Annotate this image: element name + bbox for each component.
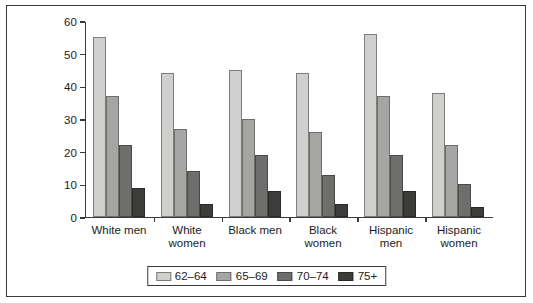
bar [268, 191, 281, 217]
bar [309, 132, 322, 217]
legend-item[interactable]: 70–74 [278, 270, 329, 282]
legend-swatch-icon [156, 272, 171, 281]
bar [296, 73, 309, 217]
y-axis-tick: 50 [64, 49, 85, 61]
x-axis-labels: White menWhite womenBlack menBlack women… [85, 224, 493, 250]
bar-group-bars [86, 22, 154, 217]
x-axis-category-label: White women [153, 224, 221, 250]
bar [390, 155, 403, 217]
bar-group-bars [425, 22, 493, 217]
y-axis-tick: 30 [64, 114, 85, 126]
bar-group-bars [357, 22, 425, 217]
chart-legend: 62–6465–6970–7475+ [147, 266, 386, 286]
x-axis-tick-mark [222, 217, 223, 222]
bar [322, 175, 335, 217]
bar-group [357, 22, 425, 217]
y-axis: 0102030405060 [40, 22, 85, 218]
legend-item[interactable]: 62–64 [156, 270, 207, 282]
bar [403, 191, 416, 217]
legend-swatch-icon [339, 272, 354, 281]
bar [106, 96, 119, 217]
x-axis-category-label: Black women [289, 224, 357, 250]
bar-group [222, 22, 290, 217]
x-axis-category-label: Hispanic women [425, 224, 493, 250]
bar [335, 204, 348, 217]
bar-group [86, 22, 154, 217]
bar [377, 96, 390, 217]
x-axis-tick-mark [425, 217, 426, 222]
bar [432, 93, 445, 217]
y-axis-tick-label: 20 [64, 147, 77, 159]
legend-item-label: 62–64 [175, 270, 207, 282]
legend-swatch-icon [217, 272, 232, 281]
legend-item[interactable]: 75+ [339, 270, 378, 282]
bar-group [289, 22, 357, 217]
bar [161, 73, 174, 217]
bar [471, 207, 484, 217]
y-axis-tick-label: 50 [64, 49, 77, 61]
chart-figure: 0102030405060 White menWhite womenBlack … [0, 0, 533, 303]
bar-groups [86, 22, 493, 217]
y-axis-tick-label: 10 [64, 179, 77, 191]
bar-group-bars [154, 22, 222, 217]
bar [119, 145, 132, 217]
bar [200, 204, 213, 217]
bar [93, 37, 106, 217]
bar [132, 188, 145, 217]
x-axis-tick-mark [357, 217, 358, 222]
bar [255, 155, 268, 217]
bar-group-bars [289, 22, 357, 217]
y-axis-tick-label: 40 [64, 81, 77, 93]
legend-swatch-icon [278, 272, 293, 281]
x-axis-tick-mark [289, 217, 290, 222]
bar [458, 184, 471, 217]
bar-group-bars [222, 22, 290, 217]
y-axis-tick: 20 [64, 147, 85, 159]
bar-group [425, 22, 493, 217]
x-axis-category-label: Hispanic men [357, 224, 425, 250]
y-axis-tick: 10 [64, 179, 85, 191]
legend-item-label: 65–69 [236, 270, 268, 282]
bar [242, 119, 255, 217]
bar [445, 145, 458, 217]
x-axis-category-label: Black men [221, 224, 289, 250]
plot-area [85, 22, 493, 218]
bar [174, 129, 187, 217]
legend-item-label: 75+ [358, 270, 378, 282]
legend-item[interactable]: 65–69 [217, 270, 268, 282]
y-axis-tick: 0 [71, 212, 86, 224]
bar [229, 70, 242, 217]
bar-group [154, 22, 222, 217]
y-axis-tick: 60 [64, 16, 85, 28]
y-axis-tick-label: 30 [64, 114, 77, 126]
bar [364, 34, 377, 217]
y-axis-tick-label: 0 [71, 212, 78, 224]
y-axis-tick: 40 [64, 81, 85, 93]
legend-item-label: 70–74 [297, 270, 329, 282]
x-axis-category-label: White men [85, 224, 153, 250]
x-axis-tick-mark [154, 217, 155, 222]
bar [187, 171, 200, 217]
y-axis-tick-label: 60 [64, 16, 77, 28]
